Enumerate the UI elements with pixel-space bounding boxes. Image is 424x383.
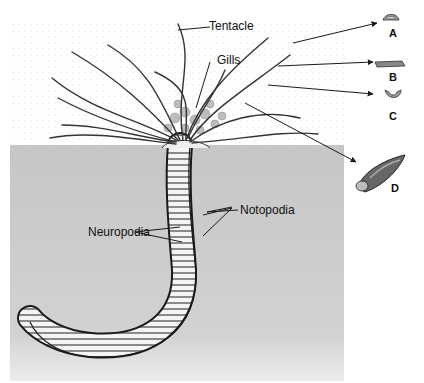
inset-label-b: B <box>389 72 397 83</box>
label-tentacle: Tentacle <box>209 20 254 32</box>
inset-label-d: D <box>391 183 399 194</box>
label-notopodia: Notopodia <box>240 204 295 216</box>
inset-b-shape <box>375 61 405 67</box>
label-neuropodia: Neuropodia <box>88 226 150 238</box>
inset-label-a: A <box>389 28 397 39</box>
inset-c-shape <box>385 90 401 98</box>
inset-a-shape <box>383 14 399 20</box>
polychaete-diagram <box>0 0 424 383</box>
water-region <box>10 20 344 146</box>
label-gills: Gills <box>217 54 240 66</box>
inset-label-c: C <box>389 111 397 122</box>
